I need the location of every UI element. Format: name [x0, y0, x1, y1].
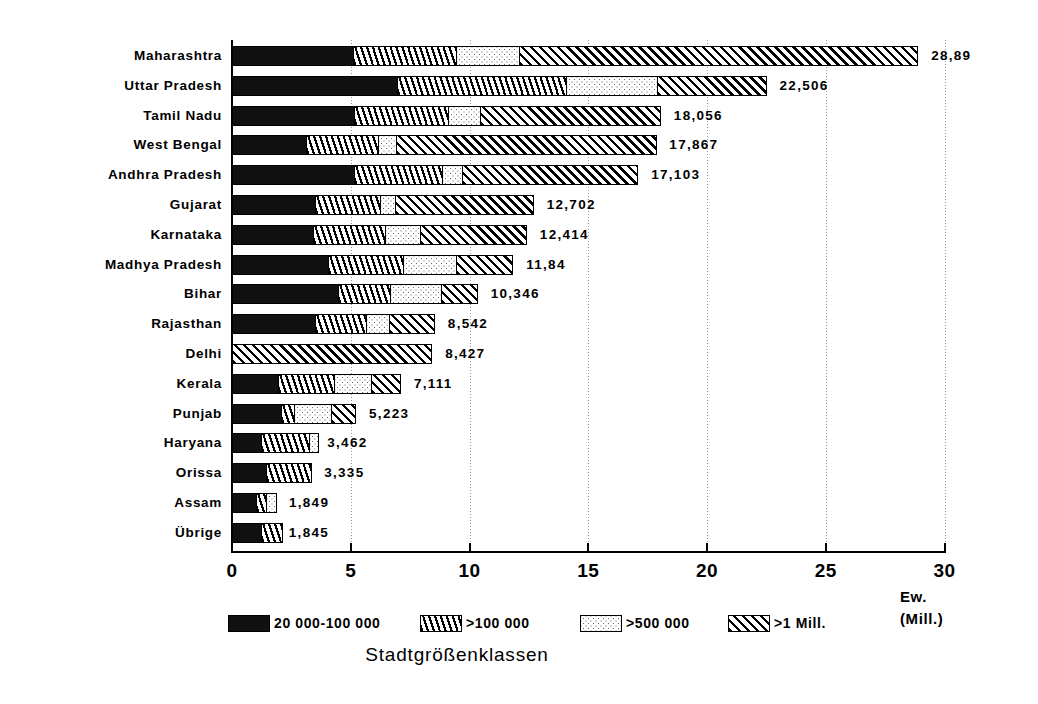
- bar-row: 17,867: [0, 135, 1038, 155]
- bar-segment-vertical-hatch: [281, 404, 294, 424]
- bar-segment-solid-black: [232, 404, 281, 424]
- legend-label: >500 000: [626, 615, 690, 631]
- x-axis-tick-label: 20: [696, 560, 718, 582]
- legend-item: >500 000: [580, 612, 690, 634]
- legend-label: >1 Mill.: [774, 615, 826, 631]
- bar-segment-solid-black: [232, 314, 315, 334]
- bar-segment-dotted: [266, 493, 277, 513]
- bar-segment-solid-black: [232, 225, 313, 245]
- x-axis-tick: [587, 543, 589, 553]
- legend-title: Stadtgrößenklassen: [0, 644, 1038, 666]
- x-axis-tick: [231, 543, 233, 553]
- bar-value-label: 3,335: [324, 464, 364, 482]
- bar-row: 1,845: [0, 523, 1038, 543]
- bar-row: 28,89: [0, 46, 1038, 66]
- bar-segment-dotted: [366, 314, 389, 334]
- bar-value-label: 12,414: [540, 226, 589, 244]
- bar-segment-vertical-hatch: [313, 225, 385, 245]
- bar-row: 3,462: [0, 433, 1038, 453]
- bar-segment-vertical-hatch: [261, 433, 310, 453]
- bar-segment-solid-black: [232, 374, 278, 394]
- legend-swatch-diagonal-hatch: [728, 615, 770, 632]
- bar-segment-dotted: [390, 284, 441, 304]
- bar-segment-solid-black: [232, 255, 328, 275]
- bar-segment-solid-black: [232, 106, 354, 126]
- bar-segment-dotted: [456, 46, 519, 66]
- bar-row: 18,056: [0, 106, 1038, 126]
- legend-item: 20 000-100 000: [228, 612, 381, 634]
- bar-value-label: 11,84: [526, 256, 566, 274]
- bar-row: 5,223: [0, 404, 1038, 424]
- bar-segment-diagonal-hatch: [462, 165, 638, 185]
- bar-segment-dotted: [378, 135, 396, 155]
- bar-value-label: 1,849: [289, 494, 329, 512]
- bar-segment-diagonal-hatch: [441, 284, 478, 304]
- x-axis-tick-label: 15: [577, 560, 599, 582]
- bar-row: 11,84: [0, 255, 1038, 275]
- bar-segment-vertical-hatch: [338, 284, 390, 304]
- bar-row: 8,542: [0, 314, 1038, 334]
- bar-segment-vertical-hatch: [266, 463, 311, 483]
- bar-row: 3,335: [0, 463, 1038, 483]
- bar-segment-solid-black: [232, 46, 353, 66]
- axis-unit-line: Ew.: [900, 586, 943, 608]
- bar-segment-solid-black: [232, 195, 315, 215]
- bar-segment-vertical-hatch: [354, 165, 442, 185]
- bar-segment-dotted: [442, 165, 462, 185]
- bar-segment-solid-black: [232, 493, 256, 513]
- bar-segment-solid-black: [232, 76, 397, 96]
- bar-segment-solid-black: [232, 463, 266, 483]
- bar-segment-diagonal-hatch: [232, 344, 432, 364]
- chart-canvas: MaharashtraUttar PradeshTamil NaduWest B…: [0, 0, 1038, 704]
- bar-segment-diagonal-hatch: [657, 76, 766, 96]
- bar-row: 1,849: [0, 493, 1038, 513]
- bar-segment-diagonal-hatch: [396, 135, 657, 155]
- bar-value-label: 5,223: [369, 405, 409, 423]
- bar-segment-dotted: [385, 225, 419, 245]
- bar-segment-dotted: [309, 433, 319, 453]
- bar-row: 10,346: [0, 284, 1038, 304]
- bar-segment-vertical-hatch: [315, 195, 380, 215]
- legend: 20 000-100 000>100 000>500 000>1 Mill.: [228, 612, 798, 636]
- bar-segment-vertical-hatch: [328, 255, 403, 275]
- bar-segment-diagonal-hatch: [395, 195, 534, 215]
- bar-row: 22,506: [0, 76, 1038, 96]
- bar-segment-vertical-hatch: [315, 314, 366, 334]
- legend-swatch-dotted: [580, 615, 622, 632]
- bar-row: 17,103: [0, 165, 1038, 185]
- legend-title-text: Stadtgrößenklassen: [365, 644, 548, 665]
- axis-unit-caption: Ew.(Mill.): [900, 586, 943, 630]
- bar-row: 12,414: [0, 225, 1038, 245]
- bar-value-label: 17,867: [669, 136, 718, 154]
- x-axis-tick-label: 10: [458, 560, 480, 582]
- bar-segment-diagonal-hatch: [519, 46, 918, 66]
- bar-segment-solid-black: [232, 523, 261, 543]
- bar-value-label: 1,845: [289, 524, 329, 542]
- bar-value-label: 10,346: [491, 285, 540, 303]
- axis-unit-line: (Mill.): [900, 608, 943, 630]
- bar-segment-solid-black: [232, 135, 306, 155]
- x-axis-tick: [944, 543, 946, 553]
- bar-segment-vertical-hatch: [278, 374, 334, 394]
- bar-value-label: 8,542: [448, 315, 488, 333]
- legend-swatch-solid-black: [228, 615, 270, 632]
- x-axis-tick: [469, 543, 471, 553]
- bar-segment-dotted: [380, 195, 394, 215]
- bar-segment-diagonal-hatch: [420, 225, 527, 245]
- legend-label: 20 000-100 000: [274, 615, 381, 631]
- bar-value-label: 8,427: [445, 345, 485, 363]
- bar-segment-diagonal-hatch: [456, 255, 513, 275]
- bar-segment-vertical-hatch: [256, 493, 267, 513]
- bar-row: 12,702: [0, 195, 1038, 215]
- bar-segment-vertical-hatch: [353, 46, 456, 66]
- x-axis-tick-label: 0: [226, 560, 237, 582]
- bar-segment-solid-black: [232, 433, 261, 453]
- legend-label: >100 000: [466, 615, 530, 631]
- bar-segment-dotted: [403, 255, 456, 275]
- bar-value-label: 28,89: [931, 47, 971, 65]
- bar-segment-solid-black: [232, 165, 354, 185]
- bar-value-label: 22,506: [780, 77, 829, 95]
- bar-row: 8,427: [0, 344, 1038, 364]
- bar-segment-dotted: [334, 374, 371, 394]
- bar-value-label: 18,056: [674, 107, 723, 125]
